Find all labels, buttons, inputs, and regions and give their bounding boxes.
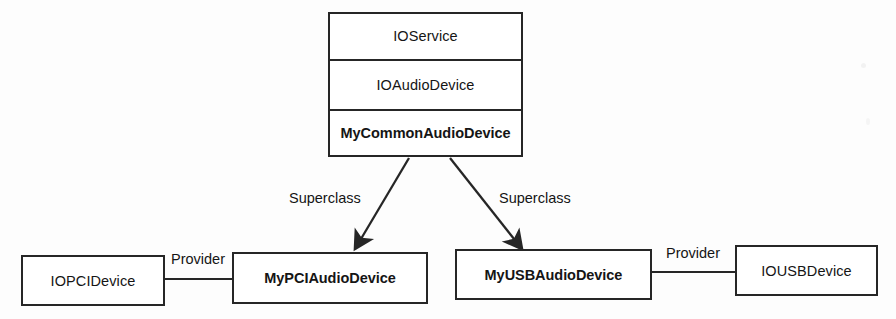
edge-label-provider-left: Provider — [171, 251, 225, 267]
edge-label-provider-right: Provider — [666, 245, 720, 261]
stack-row-ioaudiodevice: IOAudioDevice — [330, 59, 521, 110]
node-myusbaudiodevice: MyUSBAudioDevice — [455, 249, 652, 300]
node-label-iousbdevice: IOUSBDevice — [761, 263, 852, 279]
node-label-myusbaudiodevice: MyUSBAudioDevice — [485, 267, 623, 283]
stack-row-mycommonaudiodevice: MyCommonAudioDevice — [330, 109, 521, 155]
node-iousbdevice: IOUSBDevice — [735, 245, 878, 296]
edge-superclass-left — [355, 158, 409, 249]
node-mypciaudiodevice: MyPCIAudioDevice — [232, 252, 428, 304]
edge-label-superclass-right: Superclass — [499, 190, 571, 206]
node-label-iopcidevice: IOPCIDevice — [51, 273, 136, 289]
class-hierarchy-diagram: IOService IOAudioDevice MyCommonAudioDev… — [0, 0, 896, 319]
stack-label-ioservice: IOService — [393, 28, 458, 44]
stack-label-mycommonaudiodevice: MyCommonAudioDevice — [341, 125, 511, 141]
node-iopcidevice: IOPCIDevice — [21, 255, 165, 306]
stack-row-ioservice: IOService — [330, 14, 521, 59]
inheritance-stack: IOService IOAudioDevice MyCommonAudioDev… — [328, 12, 523, 157]
stack-label-ioaudiodevice: IOAudioDevice — [376, 77, 474, 93]
edge-label-superclass-left: Superclass — [289, 190, 361, 206]
node-label-mypciaudiodevice: MyPCIAudioDevice — [264, 270, 395, 286]
